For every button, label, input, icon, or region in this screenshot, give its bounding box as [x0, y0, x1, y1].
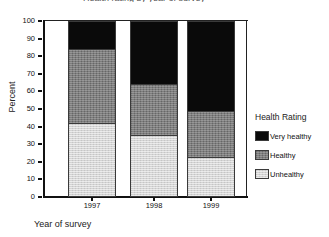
y-axis-tick — [38, 161, 42, 163]
bar-1997[interactable] — [68, 21, 116, 197]
legend: Health Rating Very healthyHealthyUnhealt… — [255, 112, 329, 188]
y-axis-tick-label: 10 — [10, 175, 35, 183]
x-axis-tick-label: 1998 — [134, 201, 174, 210]
x-axis-title: Year of survey — [34, 219, 91, 229]
y-axis-tick-label: 30 — [10, 140, 35, 148]
light-gray-swatch — [255, 169, 269, 179]
legend-item-label: Very healthy — [270, 132, 311, 141]
bar-segment-unhealthy[interactable] — [68, 123, 116, 197]
bar-segment-healthy[interactable] — [130, 84, 178, 135]
bar-segment-very-healthy[interactable] — [130, 21, 178, 84]
black-swatch — [255, 131, 269, 141]
y-axis-tick-label: 20 — [10, 158, 35, 166]
y-axis-tick — [38, 178, 42, 180]
y-axis-tick — [38, 73, 42, 75]
bar-segment-healthy[interactable] — [68, 49, 116, 123]
y-axis-tick-label: 80 — [10, 52, 35, 60]
y-axis-tick — [38, 143, 42, 145]
bar-segment-unhealthy[interactable] — [187, 157, 235, 197]
y-axis-tick-label: 0 — [10, 193, 35, 201]
y-axis-tick — [38, 126, 42, 128]
legend-item-label: Healthy — [270, 151, 295, 160]
x-axis-tick-label: 1997 — [72, 201, 112, 210]
y-axis-tick — [38, 108, 42, 110]
bar-1999[interactable] — [187, 21, 235, 197]
legend-item[interactable]: Healthy — [255, 150, 329, 160]
y-axis-title: Percent — [7, 67, 17, 127]
y-axis-tick — [38, 90, 42, 92]
y-axis-tick — [38, 55, 42, 57]
gray-swatch — [255, 150, 269, 160]
x-axis-tick-label: 1999 — [191, 201, 231, 210]
page-title: Health rating by year of survey — [44, 0, 244, 2]
legend-item[interactable]: Very healthy — [255, 131, 329, 141]
legend-items: Very healthyHealthyUnhealthy — [255, 131, 329, 179]
y-axis-tick-label: 100 — [10, 17, 35, 25]
y-axis-tick — [38, 20, 42, 22]
bar-segment-very-healthy[interactable] — [187, 21, 235, 111]
plot-area — [43, 21, 247, 197]
legend-item-label: Unhealthy — [270, 170, 304, 179]
bar-segment-very-healthy[interactable] — [68, 21, 116, 49]
y-axis-tick — [38, 38, 42, 40]
legend-title: Health Rating — [255, 112, 329, 122]
legend-item[interactable]: Unhealthy — [255, 169, 329, 179]
y-axis-tick — [38, 196, 42, 198]
bar-1998[interactable] — [130, 21, 178, 197]
y-axis-tick-label: 90 — [10, 35, 35, 43]
bar-segment-unhealthy[interactable] — [130, 135, 178, 197]
bar-segment-healthy[interactable] — [187, 111, 235, 157]
